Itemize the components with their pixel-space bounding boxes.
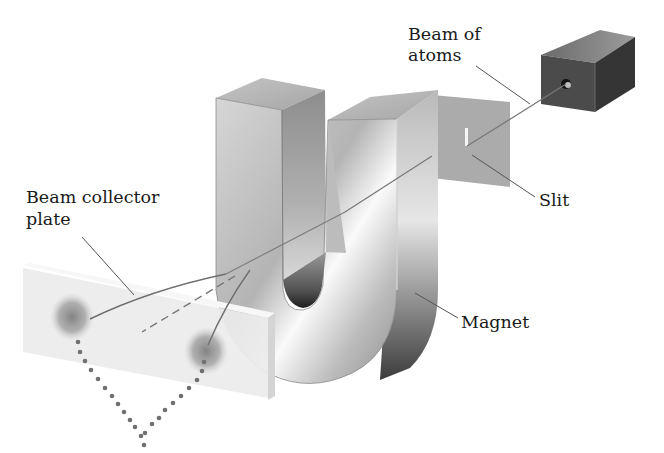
label-beam-collector-plate-line1: Beam collector bbox=[26, 187, 159, 208]
leader-beam-of-atoms bbox=[476, 66, 530, 104]
label-beam-of-atoms-line2: atoms bbox=[408, 45, 462, 66]
label-magnet: Magnet bbox=[461, 312, 529, 333]
oven-box bbox=[541, 30, 635, 112]
stern-gerlach-diagram: Beam of atoms Slit Beam collector plate … bbox=[0, 0, 664, 453]
label-slit: Slit bbox=[539, 190, 569, 211]
label-beam-collector-plate-line2: plate bbox=[26, 209, 71, 230]
label-beam-of-atoms-line1: Beam of bbox=[408, 24, 481, 45]
